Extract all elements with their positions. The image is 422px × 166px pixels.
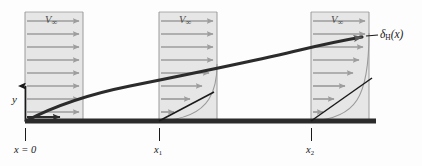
x2-label: x2 [306,145,314,157]
y-axis-label: y [12,94,17,105]
freestream-subscript-x0: ∞ [51,18,57,27]
delta-h-label: δH(x) [380,29,403,41]
diagram-canvas [0,0,422,166]
profile-box-x1 [159,12,217,121]
freestream-label-x0: V∞ [45,15,57,27]
freestream-label-x1: V∞ [179,15,191,27]
boundary-layer-figure: V∞ V∞ V∞ y x = 0 x1 x2 δH(x) [0,0,422,166]
freestream-subscript-x1: ∞ [185,18,191,27]
x-origin-label: x = 0 [14,145,36,156]
station-ticks [26,128,312,141]
profile-box-x0 [25,12,83,121]
x1-subscript: 1 [159,149,162,156]
delta-argument: (x) [391,28,404,40]
freestream-label-x2: V∞ [331,15,343,27]
freestream-subscript-x2: ∞ [337,18,343,27]
x2-subscript: 2 [311,149,314,156]
x1-label: x1 [154,145,162,157]
profile-box-x2 [311,12,369,121]
flat-plate [25,119,376,124]
